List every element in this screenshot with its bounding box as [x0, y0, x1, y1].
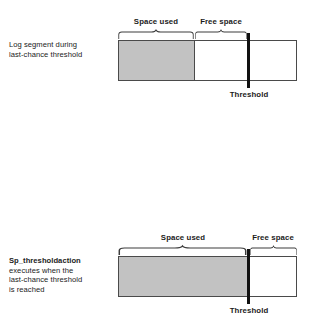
brace-free-space-panel-1 [195, 30, 247, 39]
panel-1-caption-line-2: last-chance threshold [9, 50, 82, 59]
panel-1-caption-line-1: Log segment during [9, 40, 77, 49]
panel-sp-thresholdaction-executes: Sp_thresholdaction executes when the las… [0, 108, 313, 218]
threshold-marker-panel-1 [247, 33, 250, 88]
panel-log-segment-during-threshold: Log segment during last-chance threshold… [0, 0, 313, 108]
panel-after-execution: After execution of sp_thresholdaction Sp… [0, 218, 313, 329]
label-threshold-panel-1: Threshold [230, 90, 269, 99]
panel-1-caption: Log segment during last-chance threshold [9, 40, 113, 59]
label-free-space-panel-1: Free space [200, 17, 242, 26]
label-space-used-panel-1: Space used [134, 17, 178, 26]
space-used-fill-panel-1 [119, 41, 195, 80]
log-segment-bar-panel-1 [118, 40, 297, 81]
brace-space-used-panel-1 [118, 30, 194, 39]
